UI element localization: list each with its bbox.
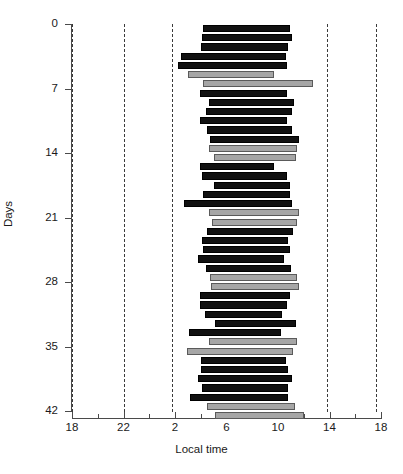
bar-day-32 xyxy=(215,320,296,327)
y-tick-label-14: 14 xyxy=(24,146,58,158)
bar-day-42 xyxy=(215,412,304,419)
bar-day-3 xyxy=(181,53,285,60)
y-tick-label-28: 28 xyxy=(24,275,58,287)
x-axis-title: Local time xyxy=(0,443,403,455)
bar-day-6 xyxy=(203,80,312,87)
x-minor-tick-4 xyxy=(304,414,305,418)
x-tick-label-18: 18 xyxy=(361,421,401,433)
x-minor-tick-1 xyxy=(149,414,150,418)
bar-day-41 xyxy=(207,403,295,410)
bar-day-26 xyxy=(206,265,291,272)
y-tick-label-7: 7 xyxy=(24,82,58,94)
reference-line-4 xyxy=(376,24,377,412)
bar-day-12 xyxy=(210,136,299,143)
bar-day-31 xyxy=(205,311,282,318)
y-tick-21 xyxy=(65,218,71,219)
bar-day-28 xyxy=(211,283,299,290)
x-tick-label-22: 22 xyxy=(104,421,144,433)
bar-day-29 xyxy=(200,292,290,299)
reference-line-0 xyxy=(72,24,73,412)
x-minor-tick-5 xyxy=(355,414,356,418)
bar-day-40 xyxy=(190,394,288,401)
bar-day-13 xyxy=(209,145,298,152)
y-axis-title: Days xyxy=(2,184,14,244)
bar-day-4 xyxy=(178,62,287,69)
bar-day-7 xyxy=(200,90,288,97)
x-tick-14 xyxy=(330,412,331,418)
bar-day-21 xyxy=(212,219,297,226)
bar-day-39 xyxy=(202,384,288,391)
y-tick-label-21: 21 xyxy=(24,211,58,223)
bar-day-17 xyxy=(214,182,290,189)
bar-day-20 xyxy=(209,209,299,216)
bar-day-8 xyxy=(209,99,294,106)
x-tick-18 xyxy=(381,412,382,418)
x-tick-label-10: 10 xyxy=(258,421,298,433)
x-tick-2 xyxy=(175,412,176,418)
bar-day-37 xyxy=(201,366,289,373)
bar-day-25 xyxy=(198,255,284,262)
bar-day-1 xyxy=(202,34,292,41)
reference-line-2 xyxy=(172,24,173,412)
bar-day-27 xyxy=(210,274,298,281)
bar-day-24 xyxy=(203,246,289,253)
x-tick-label-14: 14 xyxy=(310,421,350,433)
bar-day-35 xyxy=(187,348,294,355)
reference-line-1 xyxy=(124,24,125,412)
bar-day-30 xyxy=(200,301,288,308)
bar-day-34 xyxy=(209,338,298,345)
bar-day-23 xyxy=(202,237,288,244)
y-tick-0 xyxy=(65,24,71,25)
actogram-figure: 182226101418 071421283542 Local time Day… xyxy=(0,0,403,474)
reference-line-3 xyxy=(327,24,328,412)
bar-day-16 xyxy=(202,172,287,179)
y-tick-42 xyxy=(65,411,71,412)
bar-day-18 xyxy=(203,191,289,198)
bar-day-22 xyxy=(207,228,293,235)
y-tick-35 xyxy=(65,347,71,348)
x-minor-tick-0 xyxy=(98,414,99,418)
x-tick-22 xyxy=(124,412,125,418)
y-tick-label-42: 42 xyxy=(24,404,58,416)
x-tick-18 xyxy=(72,412,73,418)
bar-day-15 xyxy=(200,163,275,170)
bar-day-11 xyxy=(207,126,292,133)
bar-day-19 xyxy=(184,200,292,207)
bar-day-5 xyxy=(188,71,274,78)
bar-day-33 xyxy=(189,329,280,336)
y-tick-label-35: 35 xyxy=(24,340,58,352)
bar-day-2 xyxy=(201,43,289,50)
bar-day-10 xyxy=(200,117,288,124)
x-tick-label-6: 6 xyxy=(207,421,247,433)
x-minor-tick-2 xyxy=(201,414,202,418)
bar-day-9 xyxy=(206,108,292,115)
y-tick-28 xyxy=(65,282,71,283)
bar-day-0 xyxy=(203,25,289,32)
y-tick-14 xyxy=(65,153,71,154)
y-tick-7 xyxy=(65,89,71,90)
y-tick-label-0: 0 xyxy=(24,17,58,29)
bar-day-36 xyxy=(201,357,286,364)
bar-day-38 xyxy=(198,375,292,382)
bar-day-14 xyxy=(214,154,296,161)
x-tick-label-2: 2 xyxy=(155,421,195,433)
x-tick-label-18: 18 xyxy=(52,421,92,433)
